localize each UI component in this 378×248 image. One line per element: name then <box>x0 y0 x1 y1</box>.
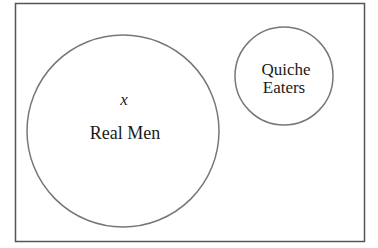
quiche-eaters-label-line1: Quiche <box>261 60 310 79</box>
real-men-label: Real Men <box>90 123 160 143</box>
element-x-label: x <box>119 90 128 109</box>
venn-diagram: x Real Men Quiche Eaters <box>0 0 378 248</box>
universe-rectangle <box>16 4 365 242</box>
quiche-eaters-label-line2: Eaters <box>263 78 305 97</box>
